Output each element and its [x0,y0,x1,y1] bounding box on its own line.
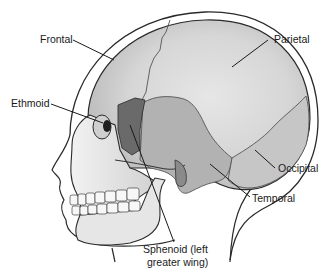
label-sphenoid: Sphenoid (left greater wing) [143,243,208,269]
label-frontal: Frontal [40,33,73,46]
skull-diagram: Frontal Parietal Ethmoid Occipital Tempo… [0,0,327,272]
label-temporal: Temporal [252,192,295,205]
label-occipital: Occipital [278,162,318,175]
label-sphenoid-line1: Sphenoid (left [143,243,208,256]
label-parietal: Parietal [274,33,310,46]
label-ethmoid: Ethmoid [11,97,50,110]
label-sphenoid-line2: greater wing) [143,256,208,269]
ethmoid-dark-area [103,120,111,132]
neck-front-line [112,248,115,262]
